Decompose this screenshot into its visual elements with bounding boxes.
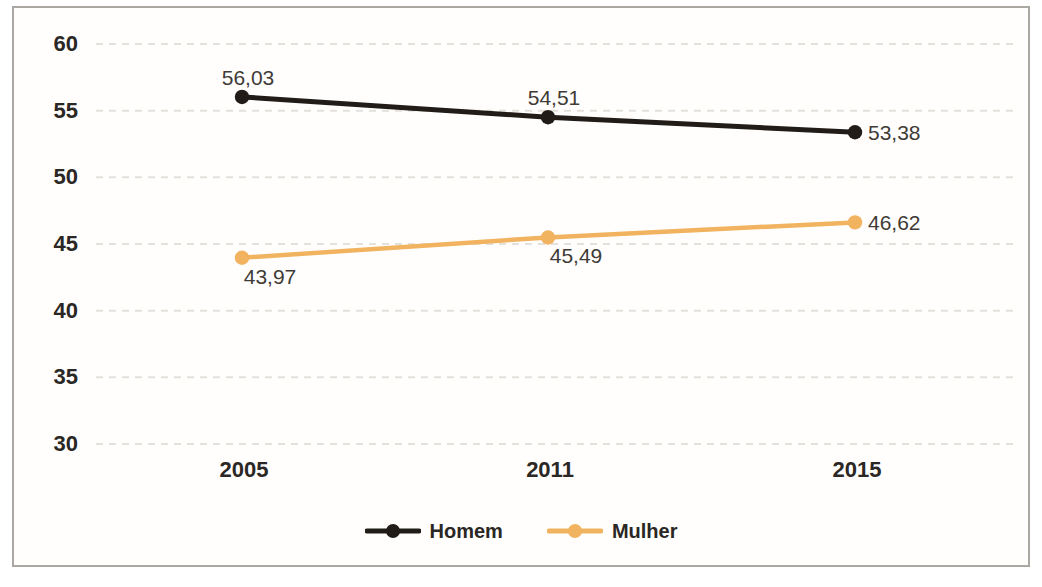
- x-axis-tick-label: 2015: [833, 459, 882, 481]
- legend-item-mulher: Mulher: [547, 521, 678, 541]
- y-axis-tick-label: 30: [20, 433, 78, 455]
- data-point-label: 53,38: [868, 122, 921, 143]
- data-point-label: 45,49: [550, 245, 603, 266]
- data-point-marker: [541, 110, 555, 124]
- data-point-marker: [235, 90, 249, 104]
- y-axis-tick-label: 40: [20, 300, 78, 322]
- data-point-label: 43,97: [244, 265, 297, 286]
- data-point-label: 46,62: [868, 212, 921, 233]
- y-axis-tick-label: 60: [20, 33, 78, 55]
- data-point-marker: [541, 230, 555, 244]
- x-axis-tick-label: 2011: [526, 459, 574, 481]
- legend-label-homem: Homem: [430, 521, 503, 541]
- data-point-marker: [235, 251, 249, 265]
- y-axis-tick-label: 50: [20, 166, 78, 188]
- chart-figure: 60 55 50 45 40 35 30 2005 2011 2015 56,0…: [0, 0, 1042, 587]
- line-plot-canvas: [0, 0, 1042, 587]
- legend-item-homem: Homem: [365, 521, 503, 541]
- legend-marker-homem-icon: [365, 523, 421, 539]
- data-point-marker: [848, 125, 862, 139]
- legend-label-mulher: Mulher: [612, 521, 678, 541]
- data-point-label: 54,51: [528, 87, 581, 108]
- y-axis-tick-label: 45: [20, 233, 78, 255]
- data-point-marker: [848, 215, 862, 229]
- data-point-label: 56,03: [222, 66, 275, 87]
- y-axis-tick-label: 55: [20, 100, 78, 122]
- legend-marker-mulher-icon: [547, 523, 603, 539]
- x-axis-tick-label: 2005: [220, 459, 269, 481]
- y-axis-tick-label: 35: [20, 366, 78, 388]
- legend: Homem Mulher: [0, 521, 1042, 541]
